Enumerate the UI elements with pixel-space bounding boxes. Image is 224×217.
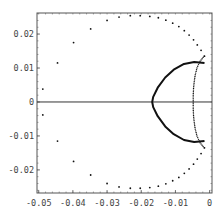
- data-point: [195, 71, 196, 72]
- data-point: [196, 134, 197, 135]
- data-point: [178, 176, 180, 178]
- data-point: [193, 117, 194, 118]
- data-point: [193, 120, 194, 121]
- data-point: [57, 62, 59, 64]
- data-point: [118, 186, 120, 188]
- data-point: [73, 161, 75, 163]
- data-point: [194, 81, 195, 82]
- data-point: [195, 74, 196, 75]
- data-point: [193, 108, 194, 109]
- data-point: [193, 39, 195, 41]
- y-tick-label: -0.01: [8, 131, 34, 141]
- data-point: [149, 15, 151, 17]
- data-point: [194, 127, 195, 128]
- data-point: [157, 185, 159, 187]
- data-point: [193, 86, 194, 87]
- data-point: [165, 183, 167, 185]
- data-point: [200, 59, 201, 60]
- x-tick-label: -0.05: [26, 198, 52, 208]
- data-point: [193, 106, 194, 107]
- x-tick-label: -0.01: [163, 198, 189, 208]
- data-point: [193, 94, 194, 95]
- data-point: [197, 137, 198, 138]
- data-point: [90, 28, 92, 30]
- data-point: [193, 98, 194, 99]
- data-point: [203, 55, 204, 56]
- data-point: [139, 187, 141, 189]
- data-point: [193, 163, 195, 165]
- data-point: [196, 158, 198, 160]
- data-point: [172, 22, 174, 24]
- data-point: [157, 17, 159, 19]
- data-point: [196, 135, 197, 136]
- data-point: [195, 72, 196, 73]
- data-point: [194, 79, 195, 80]
- data-point: [195, 130, 196, 131]
- data-point: [200, 49, 202, 51]
- data-point: [139, 15, 141, 17]
- data-point: [193, 88, 194, 89]
- data-point: [183, 172, 185, 174]
- data-point: [193, 115, 194, 116]
- data-point: [193, 105, 194, 106]
- data-point: [172, 180, 174, 182]
- data-point: [106, 183, 108, 185]
- data-point: [188, 168, 190, 170]
- y-tick-label: -0.02: [8, 165, 34, 175]
- data-point: [193, 103, 194, 104]
- y-tick-label: 0.01: [14, 63, 34, 73]
- data-point: [90, 174, 92, 176]
- data-point: [193, 101, 194, 102]
- data-point: [196, 67, 197, 68]
- plot-frame: [37, 13, 212, 193]
- x-tick-label: -0.04: [60, 198, 86, 208]
- data-point: [129, 15, 131, 17]
- data-point: [196, 44, 198, 46]
- data-point: [194, 123, 195, 124]
- data-point: [202, 146, 203, 147]
- x-tick-label: -0.03: [94, 198, 120, 208]
- data-point: [165, 19, 167, 21]
- data-point: [194, 76, 195, 77]
- data-point: [188, 34, 190, 36]
- data-point: [194, 78, 195, 79]
- data-point: [118, 16, 120, 18]
- data-point: [42, 114, 44, 116]
- data-point: [149, 187, 151, 189]
- x-tick-label: 0: [207, 198, 212, 208]
- data-point: [201, 58, 202, 59]
- data-point: [193, 83, 194, 84]
- data-point: [193, 100, 194, 101]
- data-point: [193, 113, 194, 114]
- data-point: [193, 111, 194, 112]
- y-tick-label: 0: [29, 97, 34, 107]
- data-point: [193, 89, 194, 90]
- data-point: [194, 122, 195, 123]
- data-point: [193, 96, 194, 97]
- data-point: [198, 64, 199, 65]
- data-point: [202, 57, 203, 58]
- data-point: [203, 147, 204, 148]
- data-point: [193, 118, 194, 119]
- data-point: [197, 66, 198, 67]
- data-point: [129, 187, 131, 189]
- data-point: [73, 42, 75, 44]
- data-point: [106, 20, 108, 22]
- x-axis-ticks: -0.05-0.04-0.03-0.02-0.010: [26, 13, 212, 208]
- data-point: [193, 110, 194, 111]
- data-point: [193, 93, 194, 94]
- data-point: [195, 128, 196, 129]
- data-point: [201, 145, 202, 146]
- data-point: [178, 26, 180, 28]
- plot-border: [37, 13, 212, 193]
- data-point: [57, 140, 59, 142]
- data-point: [196, 69, 197, 70]
- x-tick-label: -0.02: [128, 198, 154, 208]
- data-point: [200, 143, 201, 144]
- data-point: [195, 132, 196, 133]
- chart: -0.05-0.04-0.03-0.02-0.010 0.020.010-0.0…: [0, 0, 224, 217]
- data-point: [198, 139, 199, 140]
- data-point: [200, 153, 202, 155]
- data-point: [193, 91, 194, 92]
- data-point: [193, 84, 194, 85]
